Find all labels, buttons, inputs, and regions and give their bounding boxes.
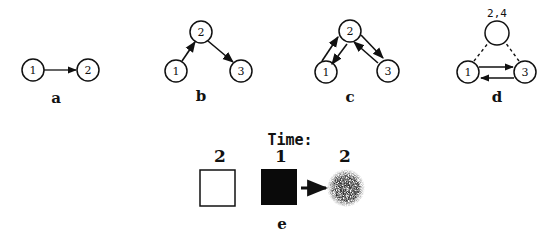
edge-1-to-2-arrow <box>322 37 338 61</box>
white-square <box>200 170 235 206</box>
edge-2-to-3-arrow <box>361 35 383 58</box>
panel-label-d: d <box>492 88 503 106</box>
figure-canvas: 1 2 a 1 2 3 b 1 2 <box>0 0 558 240</box>
panel-c: 1 2 3 c <box>315 20 399 106</box>
node-3: 3 <box>230 60 252 82</box>
svg-text:1: 1 <box>465 66 472 79</box>
node-3: 3 <box>377 60 399 82</box>
svg-text:3: 3 <box>238 65 245 78</box>
edge-1-to-2-arrow <box>182 42 195 61</box>
node-1: 1 <box>315 61 337 83</box>
panel-label-b: b <box>196 87 207 105</box>
panel-d: 2,4 1 3 d <box>457 7 536 106</box>
speckled-blob <box>327 169 365 207</box>
edge-3-to-2-arrow <box>354 42 378 63</box>
panel-b: 1 2 3 b <box>165 21 252 105</box>
svg-text:2: 2 <box>347 25 354 38</box>
node-1: 1 <box>22 59 44 81</box>
node-1: 1 <box>457 61 479 83</box>
node-2-4 <box>485 21 509 45</box>
time-label-3: 2 <box>339 146 351 166</box>
node-2: 2 <box>190 21 212 43</box>
svg-text:1: 1 <box>173 65 180 78</box>
svg-text:2: 2 <box>85 64 92 77</box>
edge-2-to-3-arrow <box>208 41 233 62</box>
panel-label-e: e <box>277 215 287 233</box>
node-3: 3 <box>514 61 536 83</box>
svg-text:2: 2 <box>198 26 205 39</box>
svg-text:3: 3 <box>385 65 392 78</box>
panel-label-c: c <box>345 88 354 106</box>
edge-3-to-2-4-dashed <box>505 42 519 61</box>
node-1: 1 <box>165 60 187 82</box>
svg-text:1: 1 <box>323 66 330 79</box>
time-label-2: 1 <box>275 146 287 166</box>
svg-text:1: 1 <box>30 64 37 77</box>
panel-a: 1 2 a <box>22 59 99 107</box>
edge-2-to-1-arrow <box>332 44 347 64</box>
edge-1-to-2-4-dashed <box>474 42 489 61</box>
node-caption-2-4: 2,4 <box>487 7 507 20</box>
svg-text:3: 3 <box>522 66 529 79</box>
panel-label-a: a <box>51 89 61 107</box>
node-2: 2 <box>339 20 361 42</box>
panel-e: Time: 2 1 2 e <box>200 131 365 233</box>
node-2: 2 <box>77 59 99 81</box>
time-label-1: 2 <box>214 146 226 166</box>
black-square <box>261 169 297 205</box>
